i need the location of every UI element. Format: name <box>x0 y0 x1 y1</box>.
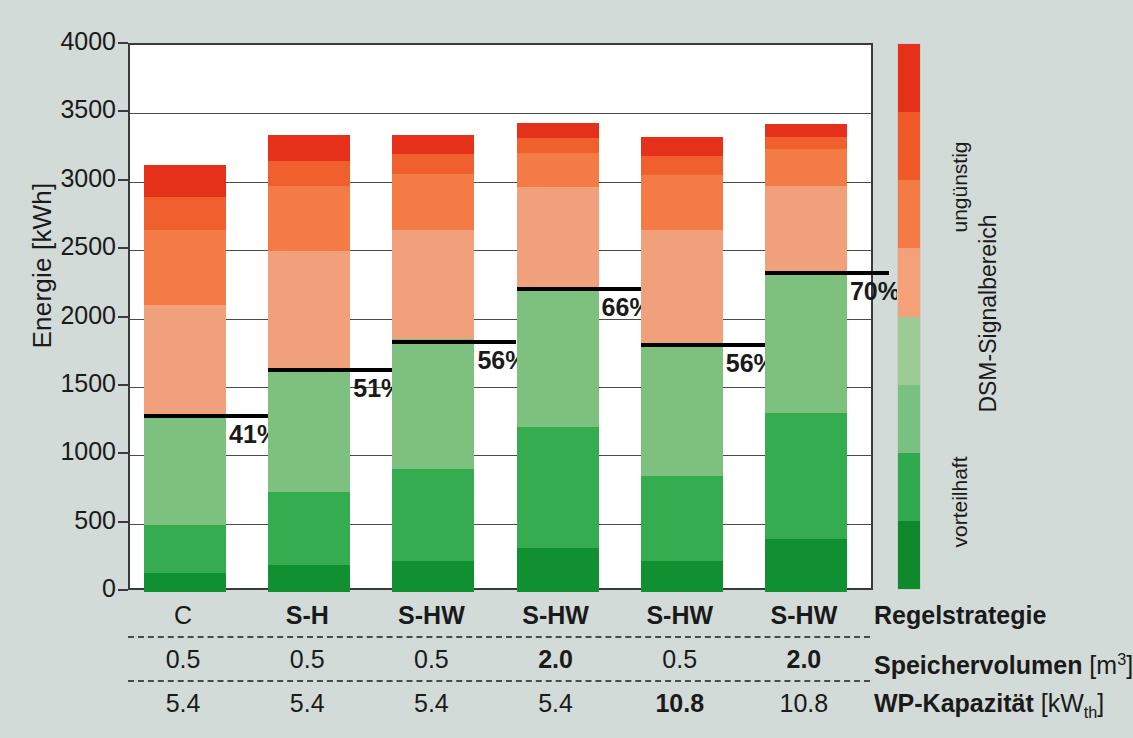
bar-segment <box>765 272 847 413</box>
bar-1[interactable] <box>144 45 226 592</box>
table-row-label: Regelstrategie <box>874 600 1046 630</box>
table-cell: 5.4 <box>122 688 244 718</box>
percent-marker-line <box>392 340 516 344</box>
bar-segment <box>392 135 474 154</box>
colorbar-segment <box>898 453 920 521</box>
table-cell: S-HW <box>370 600 492 630</box>
bar-segment <box>144 416 226 525</box>
bar-segment <box>268 370 350 492</box>
table-cell: 0.5 <box>122 644 244 674</box>
table-divider <box>128 680 870 682</box>
y-axis-tick-label: 0 <box>8 576 116 601</box>
y-axis-tick-mark <box>118 521 128 523</box>
bar-segment <box>392 561 474 592</box>
y-axis-tick-mark <box>118 316 128 318</box>
table-cell: S-HW <box>495 600 617 630</box>
bar-segment <box>144 305 226 416</box>
percent-marker-line <box>517 287 641 291</box>
colorbar-segment <box>898 317 920 385</box>
bar-segment <box>268 135 350 160</box>
bar-segment <box>765 539 847 592</box>
bar-segment <box>765 186 847 272</box>
bar-segment <box>144 573 226 592</box>
y-axis-tick-mark <box>118 452 128 454</box>
percent-marker-line <box>765 271 889 275</box>
y-axis-tick-label: 3500 <box>8 97 116 122</box>
table-cell: 0.5 <box>370 644 492 674</box>
y-axis-tick-label: 2500 <box>8 234 116 259</box>
percent-marker-line <box>144 414 268 418</box>
table-cell: 5.4 <box>246 688 368 718</box>
bar-segment <box>517 153 599 187</box>
bar-segment <box>517 187 599 288</box>
table-cell: S-HW <box>743 600 865 630</box>
bar-3[interactable] <box>392 45 474 592</box>
bar-segment <box>765 124 847 136</box>
y-axis-tick-mark <box>118 384 128 386</box>
bar-segment <box>765 137 847 149</box>
bar-segment <box>144 230 226 305</box>
bar-segment <box>517 427 599 549</box>
bar-segment <box>517 123 599 138</box>
bar-segment <box>144 165 226 197</box>
table-cell: S-HW <box>619 600 741 630</box>
bar-segment <box>641 561 723 592</box>
bar-6[interactable] <box>765 45 847 592</box>
parameter-table: CS-HS-HWS-HWS-HWS-HWRegelstrategie0.50.5… <box>128 592 1048 712</box>
table-cell: 0.5 <box>246 644 368 674</box>
bar-segment <box>641 137 723 156</box>
table-cell: 10.8 <box>619 688 741 718</box>
colorbar-axis-label: DSM-Signalbereich <box>975 194 1002 434</box>
colorbar-segment <box>898 521 920 589</box>
bar-segment <box>268 161 350 186</box>
bar-segment <box>268 492 350 564</box>
bar-5[interactable] <box>641 45 723 592</box>
table-cell: 0.5 <box>619 644 741 674</box>
table-row-label: WP-Kapazität [kWth] <box>874 688 1104 727</box>
y-axis-tick-label: 1500 <box>8 371 116 396</box>
bar-segment <box>144 197 226 229</box>
bar-4[interactable] <box>517 45 599 592</box>
bar-segment <box>268 565 350 592</box>
bar-segment <box>392 174 474 230</box>
table-cell: 5.4 <box>495 688 617 718</box>
table-divider <box>128 636 870 638</box>
y-axis-tick-mark <box>118 42 128 44</box>
bar-segment <box>517 138 599 153</box>
bar-segment <box>641 175 723 230</box>
bar-segment <box>392 154 474 173</box>
colorbar-segment <box>898 180 920 248</box>
bar-segment <box>641 476 723 561</box>
percent-marker-line <box>641 343 765 347</box>
table-cell: 2.0 <box>743 644 865 674</box>
y-axis-tick-mark <box>118 247 128 249</box>
bar-2[interactable] <box>268 45 350 592</box>
colorbar-segment <box>898 44 920 112</box>
y-axis-tick-mark <box>118 589 128 591</box>
table-cell: C <box>122 600 244 630</box>
bar-segment <box>392 230 474 339</box>
table-cell: S-H <box>246 600 368 630</box>
bar-segment <box>268 251 350 370</box>
colorbar-top-label: ungünstig <box>948 107 972 267</box>
y-axis-tick-mark <box>118 110 128 112</box>
bar-segment <box>765 413 847 539</box>
y-axis-tick-label: 3000 <box>8 166 116 191</box>
plot-area: 41%51%56%66%56%70% <box>128 43 873 590</box>
colorbar <box>897 43 921 590</box>
bar-segment <box>144 525 226 573</box>
y-axis-tick-label: 2000 <box>8 303 116 328</box>
table-row-label: Speichervolumen [m3] <box>874 644 1133 680</box>
y-axis-tick-label: 500 <box>8 508 116 533</box>
bar-segment <box>765 149 847 186</box>
percent-label: 70% <box>850 277 900 306</box>
colorbar-segment <box>898 385 920 453</box>
y-axis-tick-label: 4000 <box>8 29 116 54</box>
bar-segment <box>517 548 599 592</box>
bars-layer: 41%51%56%66%56%70% <box>130 45 871 588</box>
table-cell: 5.4 <box>370 688 492 718</box>
bar-segment <box>641 156 723 175</box>
bar-segment <box>641 344 723 475</box>
bar-segment <box>268 186 350 252</box>
colorbar-segment <box>898 248 920 316</box>
